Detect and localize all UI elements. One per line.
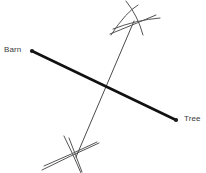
tree-point-label: Tree bbox=[184, 114, 201, 123]
compass-arcs-top bbox=[110, 1, 160, 35]
arc-bottom-cross-b bbox=[44, 142, 97, 166]
diagram-canvas: Barn Tree bbox=[0, 0, 206, 173]
arc-bottom-cross-a bbox=[64, 136, 81, 173]
compass-arcs-bottom bbox=[42, 136, 99, 173]
barn-tree-segment bbox=[32, 51, 176, 120]
arc-bottom-from-barn bbox=[69, 138, 82, 172]
arc-top-from-barn bbox=[111, 5, 138, 35]
perpendicular-bisector-line bbox=[76, 21, 134, 157]
barn-point-dot bbox=[30, 49, 34, 53]
arc-bottom-from-tree bbox=[42, 143, 99, 170]
tree-point-dot bbox=[174, 118, 178, 122]
barn-point-label: Barn bbox=[4, 45, 21, 54]
construction-figure bbox=[0, 0, 206, 173]
arc-top-cross-a bbox=[126, 1, 143, 35]
